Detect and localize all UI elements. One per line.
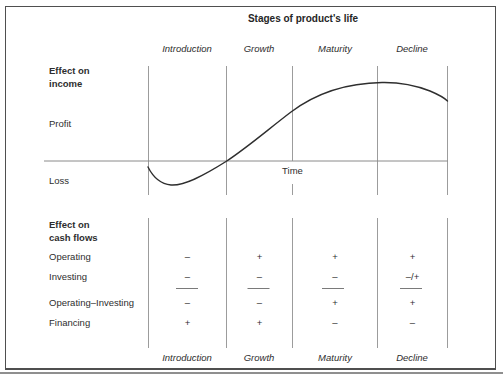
cell-operating-investing-introduction: – (149, 297, 226, 308)
cell-financing-decline: – (378, 317, 447, 328)
cell-financing-introduction: + (149, 317, 226, 328)
figure-container: Stages of product's life Introduction Gr… (0, 0, 503, 380)
cell-investing-introduction: – (149, 271, 226, 282)
loss-label: Loss (49, 175, 69, 186)
cell-investing-maturity: – (293, 271, 377, 282)
row-label-financing: Financing (49, 317, 90, 328)
cell-financing-growth: + (227, 317, 292, 328)
row-label-operating-investing: Operating–Investing (49, 297, 134, 308)
row-label-investing: Investing (49, 271, 87, 282)
cell-operating-decline: + (378, 251, 447, 262)
row-label-operating: Operating (49, 251, 91, 262)
cell-operating-maturity: + (293, 251, 377, 262)
time-axis-label: Time (262, 165, 323, 176)
cell-operating-investing-growth: – (227, 297, 292, 308)
cell-operating-growth: + (227, 251, 292, 262)
cell-investing-growth: – (227, 271, 292, 282)
stage-label-bottom-decline: Decline (367, 352, 457, 363)
stage-label-top-decline: Decline (367, 43, 457, 54)
table-stage-divider-lines (149, 218, 448, 348)
figure-title: Stages of product's life (153, 13, 453, 24)
effect-on-income-label: Effect on income (49, 65, 107, 90)
cell-operating-investing-maturity: + (293, 297, 377, 308)
cell-investing-decline: –/+ (378, 271, 447, 282)
cell-operating-investing-decline: + (378, 297, 447, 308)
cell-financing-maturity: – (293, 317, 377, 328)
effect-on-cash-flows-label: Effect on cash flows (49, 219, 111, 244)
profit-label: Profit (49, 118, 71, 129)
cell-operating-introduction: – (149, 251, 226, 262)
